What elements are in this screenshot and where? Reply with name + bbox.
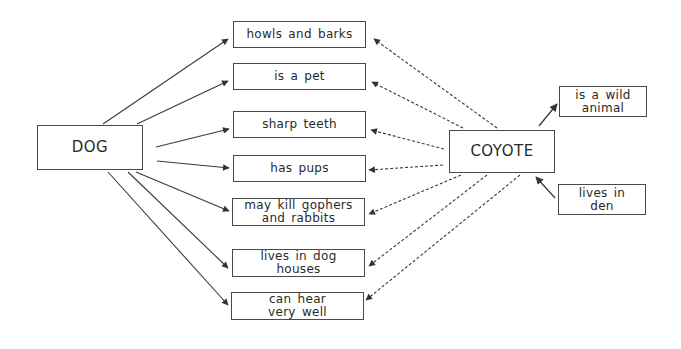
trait-label: howls and barks — [246, 28, 352, 41]
dog-to-doghouses-arrow — [128, 172, 228, 268]
comparison-diagram: DOG COYOTE howls and barks is a pet shar… — [0, 0, 681, 349]
coyote-node: COYOTE — [449, 130, 555, 173]
trait-teeth-node: sharp teeth — [233, 111, 366, 138]
trait-label: has pups — [270, 162, 329, 175]
trait-doghouses-node: lives in dog houses — [232, 249, 365, 277]
coyote-to-pups-arrow — [369, 165, 443, 170]
dog-to-howls-arrow — [103, 39, 228, 124]
dog-to-teeth-arrow — [156, 129, 229, 147]
coyote-to-pet-arrow — [372, 82, 463, 128]
dog-to-hear-arrow — [108, 172, 228, 305]
coyote-label: COYOTE — [470, 145, 533, 158]
dog-arrows — [103, 39, 229, 305]
trait-label: is a wild animal — [575, 89, 630, 115]
dog-label: DOG — [72, 141, 108, 154]
trait-gophers-node: may kill gophers and rabbits — [232, 198, 365, 226]
trait-howls-node: howls and barks — [233, 21, 366, 48]
coyote-to-gophers-arrow — [369, 175, 461, 214]
trait-label: can hear very well — [268, 293, 327, 319]
coyote-to-hear-arrow — [366, 175, 520, 300]
den-to-coyote-arrow — [536, 177, 555, 198]
dog-to-pet-arrow — [137, 81, 228, 124]
dog-to-pups-arrow — [157, 161, 229, 168]
dog-node: DOG — [37, 125, 143, 170]
trait-pups-node: has pups — [233, 155, 366, 182]
trait-pet-node: is a pet — [233, 63, 366, 90]
trait-label: may kill gophers and rabbits — [244, 199, 352, 225]
dog-to-gophers-arrow — [136, 172, 229, 211]
trait-label: lives in dog houses — [260, 250, 336, 276]
coyote-to-teeth-arrow — [371, 130, 444, 149]
trait-label: lives in den — [579, 187, 626, 213]
coyote-to-wild-arrow — [539, 104, 557, 126]
trait-hear-node: can hear very well — [231, 292, 364, 320]
trait-label: is a pet — [274, 70, 325, 83]
trait-label: sharp teeth — [262, 118, 337, 131]
trait-den-node: lives in den — [558, 184, 646, 215]
trait-wild-node: is a wild animal — [559, 86, 647, 117]
